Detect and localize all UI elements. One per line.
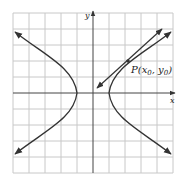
hyperbola-diagram: x y P(x0, y0) xyxy=(0,0,182,183)
y-axis-label: y xyxy=(84,11,90,20)
point-p xyxy=(126,59,130,63)
x-axis-label: x xyxy=(170,96,175,105)
point-label: P(x0, y0) xyxy=(130,64,172,77)
tangent-line xyxy=(97,29,162,88)
